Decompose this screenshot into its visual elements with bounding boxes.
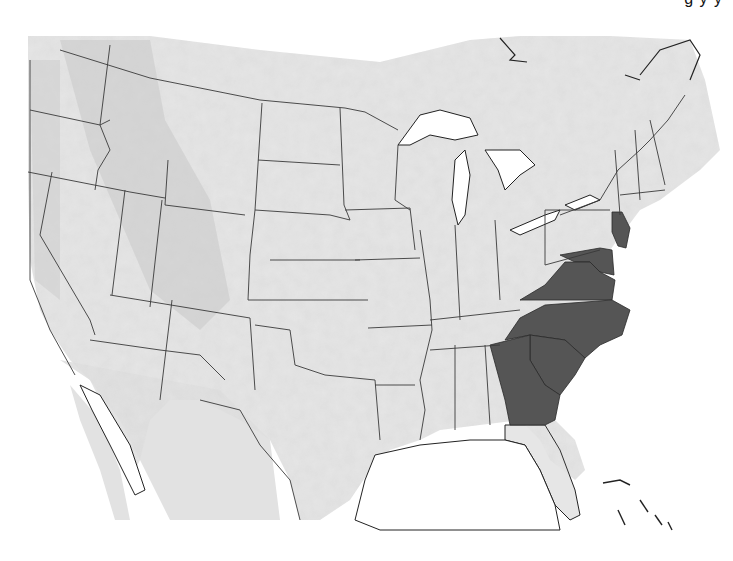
us-map bbox=[0, 0, 733, 561]
bahamas-islands bbox=[603, 480, 672, 530]
gulf-of-mexico bbox=[355, 440, 560, 530]
